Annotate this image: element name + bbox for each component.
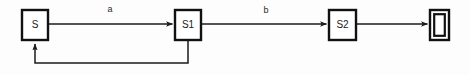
state-node-s1[interactable]: S1 bbox=[175, 10, 201, 40]
state-label-s2: S2 bbox=[336, 19, 349, 30]
state-node-accept[interactable] bbox=[430, 10, 449, 40]
accept-state-inner-box bbox=[434, 14, 445, 36]
state-label-s1: S1 bbox=[182, 19, 195, 30]
fsm-svg: a b S S1 S2 bbox=[0, 0, 470, 75]
transition-label-b: b bbox=[263, 5, 268, 15]
transition-s1-to-s-feedback bbox=[35, 41, 188, 64]
fsm-diagram-canvas: a b S S1 S2 bbox=[0, 0, 470, 75]
transition-label-a: a bbox=[107, 4, 112, 14]
state-label-s: S bbox=[32, 19, 39, 30]
state-node-s[interactable]: S bbox=[22, 10, 48, 40]
state-node-s2[interactable]: S2 bbox=[329, 10, 356, 40]
